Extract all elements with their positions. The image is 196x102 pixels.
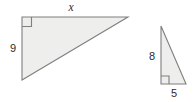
large-triangle-shape [22, 17, 128, 80]
figure-canvas: x 9 8 5 [0, 0, 196, 102]
small-triangle-shape [161, 26, 186, 84]
large-triangle: x 9 [10, 1, 128, 80]
small-triangle-bottom-label: 5 [171, 87, 177, 99]
large-triangle-top-label: x [67, 1, 74, 13]
small-triangle: 8 5 [149, 26, 186, 99]
small-triangle-left-label: 8 [149, 50, 155, 62]
large-triangle-left-label: 9 [10, 42, 16, 54]
geometry-figure: x 9 8 5 [0, 0, 196, 102]
